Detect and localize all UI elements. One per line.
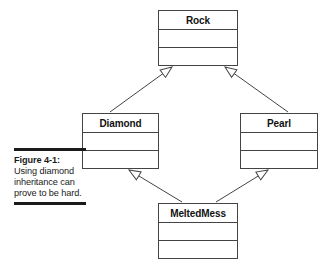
class-name-meltedmess: MeltedMess [159,204,237,223]
class-attributes-rock [159,30,237,48]
class-methods-rock [159,48,237,65]
class-attributes-diamond [83,133,158,151]
edge-diamond-to-rock [110,67,172,112]
class-methods-diamond [83,151,158,168]
class-name-diamond: Diamond [83,114,158,133]
class-box-meltedmess: MeltedMess [158,203,238,259]
figure-caption: Figure 4-1: Using diamond inheritance ca… [14,148,88,205]
edge-meltedmess-to-pearl [216,170,268,202]
class-attributes-meltedmess [159,223,237,241]
figure-page: Rock Diamond Pearl MeltedMess Figure 4-1… [0,0,331,269]
caption-label: Figure 4-1: [14,155,88,166]
class-methods-pearl [241,151,317,168]
caption-rule-bottom [14,202,86,205]
class-methods-meltedmess [159,241,237,258]
caption-body: Using diamond inheritance can prove to b… [14,166,88,199]
class-box-rock: Rock [158,10,238,66]
class-box-diamond: Diamond [82,113,159,169]
caption-rule-top [14,148,86,151]
class-name-rock: Rock [159,11,237,30]
class-attributes-pearl [241,133,317,151]
caption-text: Figure 4-1: Using diamond inheritance ca… [14,155,88,199]
class-name-pearl: Pearl [241,114,317,133]
class-box-pearl: Pearl [240,113,318,169]
edge-meltedmess-to-diamond [129,170,182,202]
edge-pearl-to-rock [225,67,288,112]
